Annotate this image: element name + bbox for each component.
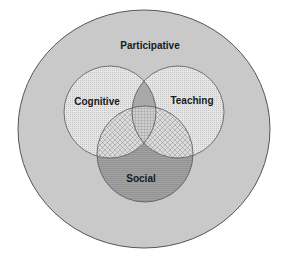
venn-diagram: Participative Cognitive Teaching Social — [0, 0, 282, 260]
label-social: Social — [126, 173, 156, 184]
label-participative: Participative — [120, 40, 180, 51]
label-cognitive: Cognitive — [74, 96, 120, 107]
label-teaching: Teaching — [170, 95, 213, 106]
